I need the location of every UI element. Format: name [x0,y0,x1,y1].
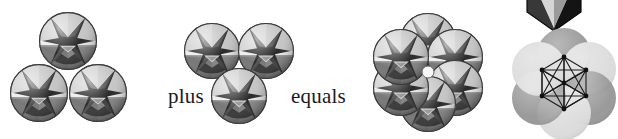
figure-canvas [0,0,618,139]
operator-label-plus: plus [168,84,204,109]
central-void [422,66,434,78]
group-hexagonal-cluster [374,14,483,132]
sphere [374,30,429,85]
graph-node [540,68,545,73]
graph-node [584,94,589,99]
sphere [70,65,127,122]
graph-node [584,68,589,73]
polyhedron-icon [527,0,581,31]
graph-node [540,94,545,99]
sphere [40,13,97,70]
group-left-triad [11,13,127,122]
group-graph-overlay [512,28,616,139]
sphere [11,65,68,122]
group-polyhedron-inset [527,0,581,31]
graph-node-center [562,81,567,86]
operator-label-equals: equals [291,84,346,109]
sphere-packing-equation-figure: plus equals [0,0,618,139]
graph-node [562,107,567,112]
sphere [212,69,267,124]
graph-node [562,55,567,60]
